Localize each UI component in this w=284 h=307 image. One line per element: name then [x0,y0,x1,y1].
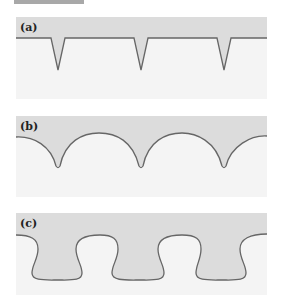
panel-label-b: (b) [20,120,38,133]
panel-label-c: (c) [20,217,37,230]
panel-c: (c) [16,213,267,295]
v-notch-profile [16,17,267,99]
panel-label-a: (a) [20,21,38,34]
panel-a: (a) [16,17,267,99]
bulb-profile [16,213,267,295]
top-rule [14,0,84,4]
panel-b: (b) [16,116,267,197]
cusp-profile [16,116,267,197]
